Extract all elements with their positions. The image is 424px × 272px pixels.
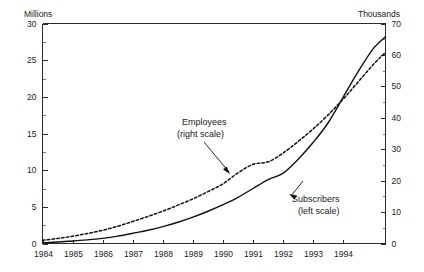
annotation-employees-arrowhead — [223, 167, 230, 175]
x-tick-label: 1989 — [184, 249, 203, 259]
right-tick-label: 50 — [392, 81, 402, 91]
left-tick-label: 30 — [27, 19, 37, 29]
right-axis-unit-label: Thousands — [358, 9, 400, 19]
right-tick-label: 40 — [392, 113, 402, 123]
x-tick-label: 1994 — [334, 249, 353, 259]
left-axis-tick-labels: 051015202530 — [27, 19, 37, 249]
x-tick-label: 1988 — [154, 249, 173, 259]
left-tick-label: 10 — [27, 165, 37, 175]
x-tick-label: 1993 — [304, 249, 323, 259]
chart-canvas: Millions Thousands 051015202530 01020304… — [0, 0, 424, 272]
x-tick-label: 1984 — [34, 249, 53, 259]
right-axis-tick-labels: 010203040506070 — [392, 19, 402, 249]
right-tick-label: 60 — [392, 50, 402, 60]
right-tick-label: 20 — [392, 176, 402, 186]
dual-axis-line-chart: Millions Thousands 051015202530 01020304… — [0, 0, 424, 272]
annotation-subscribers-line1: Subscribers — [292, 194, 340, 204]
right-tick-label: 70 — [392, 19, 402, 29]
x-tick-label: 1992 — [274, 249, 293, 259]
x-tick-label: 1991 — [244, 249, 263, 259]
x-tick-label: 1985 — [64, 249, 83, 259]
annotation-employees-line1: Employees — [182, 117, 227, 127]
left-axis-ticks — [43, 25, 48, 245]
x-tick-label: 1987 — [124, 249, 143, 259]
annotation-employees-line2: (right scale) — [177, 129, 224, 139]
annotation-employees: Employees (right scale) — [177, 117, 230, 174]
left-tick-label: 5 — [32, 202, 37, 212]
right-tick-label: 30 — [392, 144, 402, 154]
x-tick-label: 1990 — [214, 249, 233, 259]
right-tick-label: 0 — [392, 239, 397, 249]
left-axis-unit-label: Millions — [24, 9, 52, 19]
left-tick-label: 25 — [27, 55, 37, 65]
left-tick-label: 15 — [27, 129, 37, 139]
x-axis-tick-labels: 1984198519861987198819891990199119921993… — [34, 249, 353, 259]
x-tick-label: 1986 — [94, 249, 113, 259]
annotation-subscribers-line2: (left scale) — [298, 206, 340, 216]
annotation-subscribers: Subscribers (left scale) — [289, 181, 340, 216]
left-tick-label: 0 — [32, 239, 37, 249]
right-tick-label: 10 — [392, 207, 402, 217]
left-tick-label: 20 — [27, 92, 37, 102]
annotation-employees-leader — [204, 142, 229, 172]
